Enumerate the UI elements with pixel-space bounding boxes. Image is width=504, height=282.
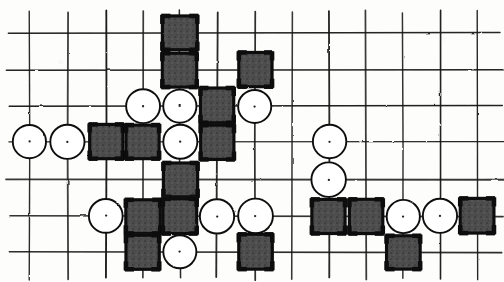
stone-white-c7r3[interactable] xyxy=(238,90,271,123)
stone-black-c4r6[interactable] xyxy=(124,197,163,235)
stone-black-c6r4[interactable] xyxy=(198,123,236,162)
stone-white-c4r3[interactable] xyxy=(126,89,160,123)
stone-black-c9r6[interactable] xyxy=(310,197,348,236)
stone-white-c1r4[interactable] xyxy=(13,125,46,158)
board-canvas[interactable] xyxy=(0,0,504,282)
stone-black-c6r3[interactable] xyxy=(198,86,236,125)
stone-black-c5r1[interactable] xyxy=(160,14,199,52)
grid-line-horizontal-5 xyxy=(6,179,504,180)
stone-white-c3r6[interactable] xyxy=(89,199,123,233)
board-diagram xyxy=(0,0,504,282)
stone-white-c11r6[interactable] xyxy=(387,200,420,233)
stone-white-c5r4[interactable] xyxy=(163,125,197,159)
stone-white-c7r6[interactable] xyxy=(238,199,273,234)
stone-white-c5r3[interactable] xyxy=(163,90,196,123)
stone-white-c6r6[interactable] xyxy=(200,199,234,233)
stone-black-c5r6[interactable] xyxy=(161,197,199,236)
stone-black-c3r4[interactable] xyxy=(87,122,125,161)
stone-black-c11r7[interactable] xyxy=(384,233,422,271)
stone-white-c12r6[interactable] xyxy=(423,199,457,233)
stone-black-c7r2[interactable] xyxy=(236,50,274,89)
stone-black-c7r7[interactable] xyxy=(236,232,274,271)
stone-white-c5r7[interactable] xyxy=(163,235,196,268)
grid-line-vertical-10 xyxy=(365,10,366,279)
stone-white-c2r4[interactable] xyxy=(50,125,84,159)
stone-white-c9r4[interactable] xyxy=(313,125,346,158)
grid-line-vertical-8 xyxy=(292,12,293,279)
stone-black-c4r4[interactable] xyxy=(124,123,162,161)
stone-black-c10r6[interactable] xyxy=(347,197,385,236)
stone-black-c4r7[interactable] xyxy=(124,233,162,272)
stone-black-c5r5[interactable] xyxy=(161,161,200,199)
stone-black-c5r2[interactable] xyxy=(160,51,199,89)
stone-black-c13r6[interactable] xyxy=(458,196,496,235)
grid-line-horizontal-1 xyxy=(8,32,500,33)
stone-white-c9r5[interactable] xyxy=(311,162,345,196)
